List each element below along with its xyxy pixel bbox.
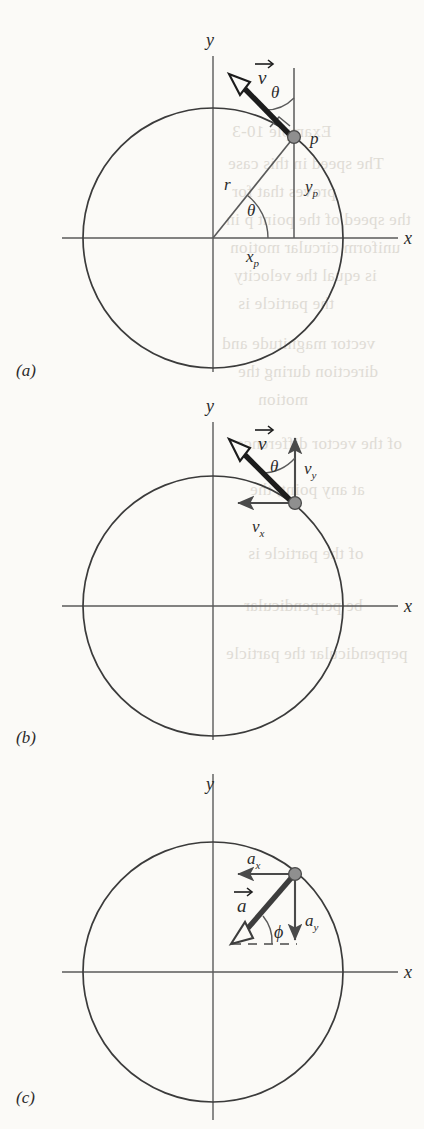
theta-arc-point	[262, 458, 295, 473]
xp-label: xp	[245, 247, 260, 269]
x-axis-label: x	[403, 596, 412, 616]
x-axis-label: x	[403, 962, 412, 982]
point-p-label: p	[309, 129, 319, 148]
y-axis-label: y	[204, 30, 214, 50]
panel-a-label: (a)	[16, 361, 36, 381]
velocity-vector-shaft	[245, 455, 292, 502]
x-axis-label: x	[403, 228, 412, 248]
panel-a: y x v θ θ r p yp xp (a)	[0, 0, 424, 380]
velocity-label: v	[258, 67, 267, 88]
phi-arc	[263, 916, 272, 944]
panel-c-label: (c)	[16, 1088, 35, 1108]
yp-label: yp	[303, 177, 319, 199]
ax-label: ax	[247, 849, 261, 871]
acceleration-vector-shaft	[248, 876, 293, 928]
vy-label: vy	[304, 459, 317, 481]
point-p-dot	[288, 131, 301, 144]
theta-label: θ	[270, 457, 278, 476]
radius-label: r	[224, 175, 231, 194]
theta-label-point: θ	[271, 83, 279, 102]
point-p-dot	[289, 868, 302, 881]
acceleration-label: a	[237, 895, 247, 916]
panel-c: y x ax ay a ϕ (c)	[0, 748, 424, 1129]
velocity-label: v	[258, 433, 267, 454]
panel-b: y x v θ vy vx (b)	[0, 380, 424, 748]
point-p-dot	[289, 497, 302, 510]
y-axis-label: y	[204, 774, 214, 794]
panel-b-label: (b)	[16, 728, 36, 748]
theta-label-origin: θ	[247, 201, 255, 220]
y-axis-label: y	[204, 396, 214, 416]
figure-page: Example 10-3 The speed in this case prov…	[0, 0, 424, 1129]
phi-label: ϕ	[274, 922, 283, 942]
velocity-vector-shaft	[245, 89, 291, 136]
vx-label: vx	[252, 517, 265, 539]
ay-label: ay	[305, 911, 319, 933]
